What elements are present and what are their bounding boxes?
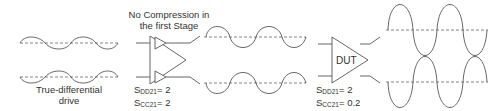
intermediate-waveforms bbox=[204, 27, 306, 94]
input-caption-line2: drive bbox=[30, 95, 108, 106]
first-stage-sdd21: SDD21= 2 bbox=[134, 84, 170, 97]
first-stage-title-line1: No Compression in bbox=[126, 9, 212, 20]
output-waveforms bbox=[386, 5, 488, 108]
first-stage-params: SDD21= 2 SCC21= 2 bbox=[134, 84, 170, 110]
dut-params: SDD21= 2 SCC21= 0.2 bbox=[316, 84, 360, 110]
param-value: = 2 bbox=[339, 84, 352, 95]
dut-label: DUT bbox=[336, 55, 357, 66]
param-subscript: DD21 bbox=[140, 88, 157, 95]
param-value: = 0.2 bbox=[339, 97, 360, 108]
first-stage-scc21: SCC21= 2 bbox=[134, 97, 170, 110]
param-subscript: CC21 bbox=[140, 101, 157, 108]
param-value: = 2 bbox=[157, 84, 170, 95]
first-stage-amplifier bbox=[136, 36, 200, 84]
dut-sdd21: SDD21= 2 bbox=[316, 84, 360, 97]
first-stage-title-line2: the first Stage bbox=[126, 20, 212, 31]
param-subscript: DD21 bbox=[322, 88, 339, 95]
param-value: = 2 bbox=[157, 97, 170, 108]
param-subscript: CC21 bbox=[322, 101, 339, 108]
input-caption: True-differential drive bbox=[30, 84, 108, 106]
dut-scc21: SCC21= 0.2 bbox=[316, 97, 360, 110]
first-stage-title: No Compression in the first Stage bbox=[126, 9, 212, 31]
input-waveforms bbox=[20, 37, 118, 83]
input-caption-line1: True-differential bbox=[30, 84, 108, 95]
